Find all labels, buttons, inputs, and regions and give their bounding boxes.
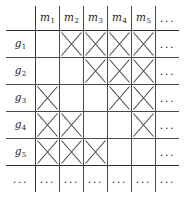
column-header-m4-label: m4 — [112, 12, 127, 25]
cross-icon — [60, 139, 83, 165]
column-header-m3: m3 — [84, 6, 108, 31]
cell-ellipsis-label: ... — [160, 147, 175, 158]
cell-ellipsis-label: ... — [160, 39, 175, 50]
cross-icon — [108, 58, 131, 84]
cell-g2-m5 — [132, 58, 156, 85]
cell-ellipsis-label: ... — [64, 174, 79, 185]
cross-icon — [132, 85, 155, 111]
cell-ellipsis-label: ... — [40, 174, 55, 185]
cell-ellipsis-label: ... — [160, 174, 175, 185]
cross-icon — [60, 31, 83, 57]
row-header-ellipsis: ... — [6, 166, 36, 193]
grid-body: m1 m2 m3 m4 m5 ... — [6, 6, 179, 192]
cell-g5-m1 — [36, 139, 60, 166]
row-header-g5-label: g5 — [15, 146, 27, 159]
cell-ellipsis-ellipsis: ... — [156, 166, 180, 193]
cell-g5-m3 — [84, 139, 108, 166]
cell-g3-m5 — [132, 85, 156, 112]
cell-g4-m3 — [84, 112, 108, 139]
row-header-g2: g2 — [6, 58, 36, 85]
cell-g1-m2 — [60, 31, 84, 58]
cross-icon — [36, 139, 59, 165]
cross-icon — [36, 112, 59, 138]
cell-g3-ellipsis: ... — [156, 85, 180, 112]
column-header-m5: m5 — [132, 6, 156, 31]
cross-icon — [84, 31, 107, 57]
column-header-m2-label: m2 — [64, 12, 79, 25]
corner-cell — [6, 6, 36, 31]
cell-g5-ellipsis: ... — [156, 139, 180, 166]
cell-g1-m3 — [84, 31, 108, 58]
cross-icon — [132, 31, 155, 57]
cell-g2-m4 — [108, 58, 132, 85]
cell-ellipsis-label: ... — [136, 174, 151, 185]
row-header-g1: g1 — [6, 31, 36, 58]
column-header-m5-label: m5 — [136, 12, 151, 25]
column-header-m1-label: m1 — [40, 12, 55, 25]
cell-g3-m4 — [108, 85, 132, 112]
table-row: g5 — [6, 139, 179, 166]
column-header-m2: m2 — [60, 6, 84, 31]
cross-icon — [36, 85, 59, 111]
column-header-m4: m4 — [108, 6, 132, 31]
table-row: g4 — [6, 112, 179, 139]
column-header-m1: m1 — [36, 6, 60, 31]
cell-g2-m2 — [60, 58, 84, 85]
cell-g1-m1 — [36, 31, 60, 58]
cell-ellipsis-label: ... — [112, 174, 127, 185]
cell-g2-m1 — [36, 58, 60, 85]
cross-icon — [60, 112, 83, 138]
incidence-grid-figure: m1 m2 m3 m4 m5 ... — [0, 0, 195, 208]
row-header-g2-label: g2 — [15, 65, 27, 78]
cell-g1-ellipsis: ... — [156, 31, 180, 58]
cell-ellipsis-label: ... — [160, 120, 175, 131]
row-header-g4-label: g4 — [15, 119, 27, 132]
row-header-g5: g5 — [6, 139, 36, 166]
cell-ellipsis-label: ... — [160, 66, 175, 77]
cell-g4-m1 — [36, 112, 60, 139]
cell-g5-m5 — [132, 139, 156, 166]
cell-g2-ellipsis: ... — [156, 58, 180, 85]
row-header-g1-label: g1 — [15, 38, 27, 51]
column-header-ellipsis: ... — [156, 6, 180, 31]
row-header-g3: g3 — [6, 85, 36, 112]
cross-icon — [132, 58, 155, 84]
table-row: g2 — [6, 58, 179, 85]
grid-header-row: m1 m2 m3 m4 m5 ... — [6, 6, 179, 31]
cell-g4-m5 — [132, 112, 156, 139]
cell-g2-m3 — [84, 58, 108, 85]
cell-g3-m1 — [36, 85, 60, 112]
cell-ellipsis-m3: ... — [84, 166, 108, 193]
grid-ellipsis-row: ... ... ... ... ... ... ... — [6, 166, 179, 193]
cross-icon — [132, 112, 155, 138]
cell-g3-m3 — [84, 85, 108, 112]
column-header-ellipsis-label: ... — [160, 13, 175, 24]
cell-ellipsis-m5: ... — [132, 166, 156, 193]
cell-ellipsis-m4: ... — [108, 166, 132, 193]
cell-ellipsis-label: ... — [88, 174, 103, 185]
cell-g4-ellipsis: ... — [156, 112, 180, 139]
incidence-grid-table: m1 m2 m3 m4 m5 ... — [6, 6, 179, 192]
cell-g5-m2 — [60, 139, 84, 166]
cell-ellipsis-label: ... — [160, 93, 175, 104]
cell-g4-m2 — [60, 112, 84, 139]
column-header-m3-label: m3 — [88, 12, 103, 25]
cross-icon — [108, 31, 131, 57]
cell-g5-m4 — [108, 139, 132, 166]
cross-icon — [84, 58, 107, 84]
cell-ellipsis-m1: ... — [36, 166, 60, 193]
cell-g4-m4 — [108, 112, 132, 139]
cell-ellipsis-m2: ... — [60, 166, 84, 193]
row-header-g4: g4 — [6, 112, 36, 139]
cell-g1-m5 — [132, 31, 156, 58]
table-row: g3 — [6, 85, 179, 112]
cross-icon — [84, 139, 107, 165]
row-header-ellipsis-label: ... — [13, 174, 28, 185]
row-header-g3-label: g3 — [15, 92, 27, 105]
cross-icon — [108, 85, 131, 111]
cell-g1-m4 — [108, 31, 132, 58]
table-row: g1 — [6, 31, 179, 58]
cell-g3-m2 — [60, 85, 84, 112]
